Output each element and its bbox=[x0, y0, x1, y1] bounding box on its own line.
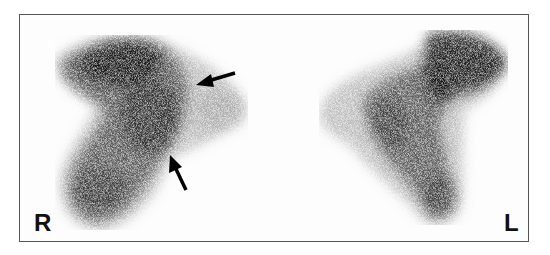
scan-frame: R L bbox=[19, 14, 529, 242]
right-side-label: R bbox=[34, 211, 51, 235]
scintigraphy-image bbox=[20, 15, 529, 242]
left-side-label: L bbox=[504, 211, 519, 235]
left-lung-image bbox=[320, 31, 508, 225]
right-lung-image bbox=[55, 35, 248, 230]
arrow-lower-icon bbox=[169, 155, 186, 190]
